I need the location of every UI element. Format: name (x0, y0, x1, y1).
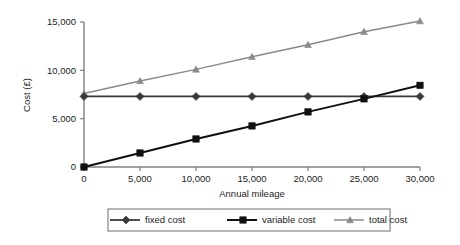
y-tick-label: 10,000 (47, 65, 76, 76)
data-point-square (305, 109, 311, 115)
y-tick-label: 5,000 (52, 113, 76, 124)
legend-label: variable cost (262, 214, 316, 225)
data-point-square (240, 217, 246, 223)
y-axis-title: Cost (£) (21, 78, 32, 112)
x-tick-label: 0 (81, 173, 86, 184)
x-axis-title: Annual mileage (219, 188, 285, 199)
data-point-square (249, 123, 255, 129)
x-tick-label: 25,000 (349, 173, 378, 184)
x-tick-label: 15,000 (237, 173, 266, 184)
x-tick-label: 5,000 (128, 173, 152, 184)
legend-label: fixed cost (145, 214, 185, 225)
x-tick-label: 30,000 (405, 173, 434, 184)
cost-vs-mileage-line-chart: 05,00010,00015,000 05,00010,00015,00020,… (0, 0, 460, 245)
data-point-square (137, 150, 143, 156)
data-point-square (361, 96, 367, 102)
y-tick-label: 0 (71, 161, 76, 172)
y-tick-label: 15,000 (47, 16, 76, 27)
data-point-square (417, 82, 423, 88)
data-point-square (193, 136, 199, 142)
x-tick-label: 10,000 (181, 173, 210, 184)
data-point-square (81, 164, 87, 170)
legend-label: total cost (369, 214, 407, 225)
chart-legend: fixed costvariable costtotal cost (108, 209, 407, 231)
chart-container: 05,00010,00015,000 05,00010,00015,00020,… (0, 0, 460, 245)
x-tick-label: 20,000 (293, 173, 322, 184)
